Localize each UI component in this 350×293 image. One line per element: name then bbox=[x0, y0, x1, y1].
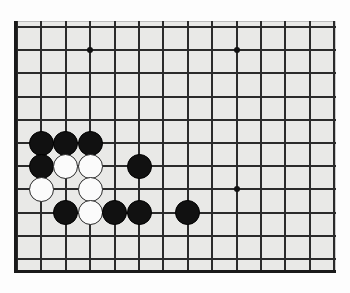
black-stone-8[interactable] bbox=[127, 200, 152, 225]
white-stone-2[interactable] bbox=[78, 154, 103, 179]
black-stone-4[interactable] bbox=[29, 154, 54, 179]
black-stone-5[interactable] bbox=[127, 154, 152, 179]
star-point-upper-right bbox=[234, 47, 240, 53]
grid-line-horizontal-1 bbox=[14, 49, 336, 51]
black-stone-6[interactable] bbox=[53, 200, 78, 225]
board-edge-top bbox=[14, 21, 336, 22]
board-edge-bottom bbox=[14, 270, 336, 273]
go-board[interactable] bbox=[14, 21, 336, 273]
grid-line-horizontal-4 bbox=[14, 119, 336, 121]
white-stone-3[interactable] bbox=[29, 177, 54, 202]
white-stone-1[interactable] bbox=[53, 154, 78, 179]
black-stone-3[interactable] bbox=[78, 131, 103, 156]
star-point-lower-right bbox=[234, 186, 240, 192]
black-stone-2[interactable] bbox=[53, 131, 78, 156]
photo-area bbox=[0, 0, 350, 293]
grid-line-horizontal-3 bbox=[14, 96, 336, 98]
grid-line-horizontal-10 bbox=[14, 258, 336, 260]
white-stone-4[interactable] bbox=[78, 177, 103, 202]
grid-line-horizontal-0 bbox=[14, 26, 336, 28]
white-stone-5[interactable] bbox=[78, 200, 103, 225]
black-stone-1[interactable] bbox=[29, 131, 54, 156]
grid-line-horizontal-9 bbox=[14, 235, 336, 237]
black-stone-9[interactable] bbox=[175, 200, 200, 225]
star-point-upper-left bbox=[87, 47, 93, 53]
grid-line-horizontal-2 bbox=[14, 72, 336, 74]
black-stone-7[interactable] bbox=[102, 200, 127, 225]
board-edge-left bbox=[14, 21, 17, 273]
grid-line-horizontal-7 bbox=[14, 188, 336, 190]
